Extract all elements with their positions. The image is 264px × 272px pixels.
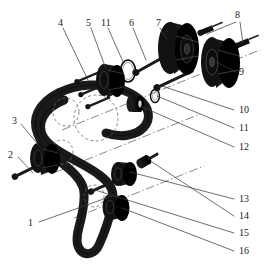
callout-label-16: 16 — [239, 246, 249, 256]
water-pump-sprocket — [96, 64, 125, 98]
callout-label-9: 9 — [239, 67, 244, 77]
callout-label-3: 3 — [12, 116, 17, 126]
callout-label-4: 4 — [58, 18, 63, 28]
callout-label-6: 6 — [129, 18, 134, 28]
callout-label-7: 7 — [156, 18, 161, 28]
callout-label-13: 13 — [239, 194, 249, 204]
exploded-parts-diagram — [0, 0, 264, 272]
diagram-page: 1 2 3 4 5 11 6 7 8 9 10 11 12 13 14 15 1… — [0, 0, 264, 272]
spacer-bushing — [127, 96, 145, 112]
callout-label-5: 5 — [86, 18, 91, 28]
callout-label-12: 12 — [239, 142, 249, 152]
callout-label-1: 1 — [28, 218, 33, 228]
callout-label-10: 10 — [239, 105, 249, 115]
camshaft-sprocket-left — [158, 22, 199, 75]
callout-label-15: 15 — [239, 228, 249, 238]
belt-tensioner-pulley — [30, 143, 60, 175]
camshaft-sprocket-right — [201, 37, 240, 88]
callout-label-11-upper: 11 — [101, 18, 111, 28]
idler-pulley-upper — [111, 162, 137, 186]
callout-label-14: 14 — [239, 211, 249, 221]
callout-label-2: 2 — [8, 150, 13, 160]
callout-label-8: 8 — [235, 10, 240, 20]
callout-label-11-lower: 11 — [239, 123, 249, 133]
